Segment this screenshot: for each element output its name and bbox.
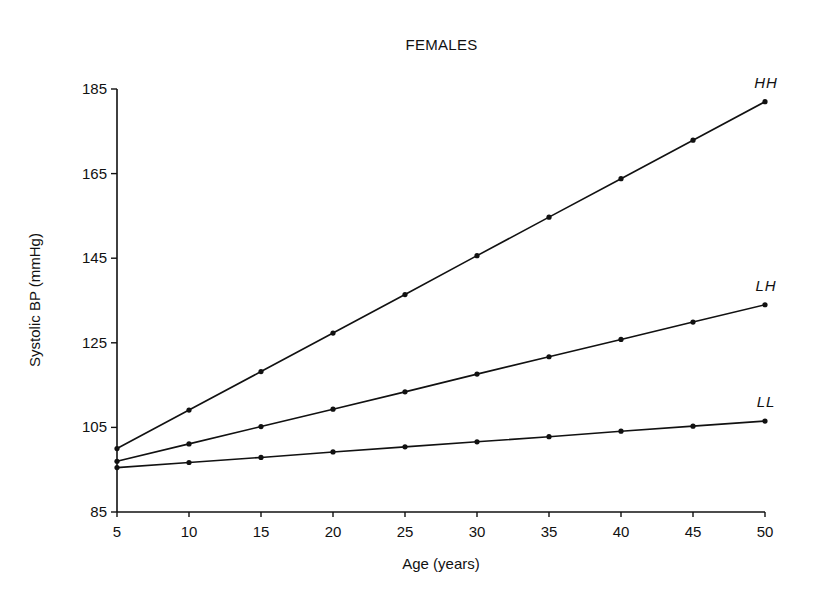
y-tick-label: 125 — [82, 334, 107, 351]
y-tick-label: 85 — [90, 503, 107, 520]
series-label-hh: HH — [754, 74, 778, 91]
x-tick-label: 5 — [113, 523, 121, 540]
x-tick-label: 30 — [469, 523, 486, 540]
data-point — [474, 253, 479, 258]
x-tick-label: 20 — [325, 523, 342, 540]
data-point — [258, 424, 263, 429]
data-point — [330, 330, 335, 335]
y-tick-label: 185 — [82, 80, 107, 97]
x-tick-label: 25 — [397, 523, 414, 540]
data-point — [258, 455, 263, 460]
x-tick-label: 35 — [541, 523, 558, 540]
data-point — [258, 369, 263, 374]
y-tick-label: 165 — [82, 165, 107, 182]
x-tick-label: 45 — [685, 523, 702, 540]
data-point — [114, 465, 119, 470]
data-point — [330, 449, 335, 454]
series-line-lh — [117, 305, 765, 462]
data-point — [690, 319, 695, 324]
data-point — [546, 354, 551, 359]
data-point — [762, 418, 767, 423]
data-point — [618, 429, 623, 434]
data-point — [402, 389, 407, 394]
data-point — [762, 99, 767, 104]
data-point — [618, 337, 623, 342]
x-tick-label: 40 — [613, 523, 630, 540]
y-tick-label: 105 — [82, 418, 107, 435]
series-label-ll: LL — [757, 393, 776, 410]
series-line-ll — [117, 421, 765, 468]
series-line-hh — [117, 102, 765, 449]
data-point — [690, 138, 695, 143]
x-tick-label: 50 — [757, 523, 774, 540]
data-point — [546, 215, 551, 220]
y-tick-label: 145 — [82, 249, 107, 266]
x-tick-label: 15 — [253, 523, 270, 540]
data-point — [330, 407, 335, 412]
x-tick-label: 10 — [181, 523, 198, 540]
data-point — [402, 292, 407, 297]
data-point — [186, 441, 191, 446]
data-point — [402, 444, 407, 449]
data-point — [618, 176, 623, 181]
data-point — [114, 459, 119, 464]
data-point — [474, 439, 479, 444]
data-point — [474, 372, 479, 377]
data-point — [762, 302, 767, 307]
data-point — [690, 424, 695, 429]
data-point — [186, 407, 191, 412]
data-point — [114, 446, 119, 451]
data-point — [546, 434, 551, 439]
line-chart: 851051251451651855101520253035404550HHLH… — [0, 0, 823, 607]
series-label-lh: LH — [755, 277, 776, 294]
data-point — [186, 460, 191, 465]
